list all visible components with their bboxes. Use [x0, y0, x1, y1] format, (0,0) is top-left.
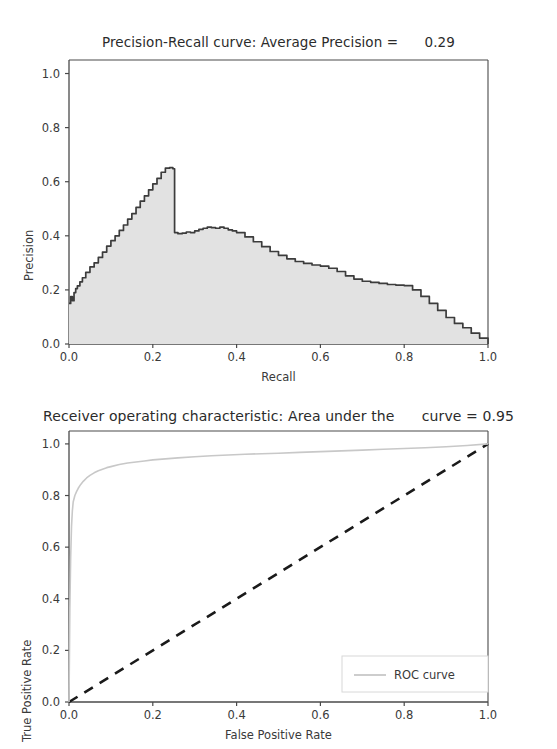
roc-ytick-label: 0.4 — [42, 592, 60, 606]
pr-ytick-label: 0.2 — [42, 283, 60, 297]
pr-xtick-label: 0.2 — [144, 350, 162, 364]
roc-figure: Receiver operating characteristic: Area … — [0, 395, 557, 749]
pr-plot-canvas: 0.00.20.40.60.81.00.00.20.40.60.81.0 — [0, 0, 557, 395]
pr-xtick-label: 0.0 — [60, 350, 78, 364]
roc-plot-canvas: ROC curve 0.00.20.40.60.81.00.00.20.40.6… — [0, 395, 557, 749]
pr-ytick-label: 1.0 — [42, 67, 60, 81]
pr-ytick-label: 0.4 — [42, 229, 60, 243]
roc-legend-label: ROC curve — [394, 668, 455, 682]
pr-ytick-label: 0.8 — [42, 121, 60, 135]
pr-xtick-label: 0.8 — [395, 350, 413, 364]
roc-ytick-label: 0.2 — [42, 643, 60, 657]
roc-xtick-label: 0.8 — [395, 708, 413, 722]
pr-ytick-label: 0.6 — [42, 175, 60, 189]
roc-yaxis-label: True Positive Rate — [20, 640, 34, 742]
pr-xtick-label: 1.0 — [479, 350, 497, 364]
roc-ytick-label: 0.6 — [42, 540, 60, 554]
roc-xtick-label: 0.4 — [227, 708, 245, 722]
roc-xtick-label: 0.0 — [60, 708, 78, 722]
pr-ytick-label: 0.0 — [42, 337, 60, 351]
roc-xaxis-label: False Positive Rate — [0, 728, 557, 742]
pr-yaxis-label: Precision — [22, 230, 36, 281]
roc-ytick-label: 0.8 — [42, 489, 60, 503]
roc-xtick-label: 0.6 — [311, 708, 329, 722]
roc-xtick-label: 1.0 — [479, 708, 497, 722]
precision-recall-figure: Precision-Recall curve: Average Precisio… — [0, 0, 557, 395]
roc-xtick-label: 0.2 — [144, 708, 162, 722]
roc-ytick-label: 1.0 — [42, 437, 60, 451]
pr-xtick-label: 0.6 — [311, 350, 329, 364]
pr-xaxis-label: Recall — [0, 370, 557, 384]
roc-ytick-label: 0.0 — [42, 695, 60, 709]
pr-xtick-label: 0.4 — [227, 350, 245, 364]
